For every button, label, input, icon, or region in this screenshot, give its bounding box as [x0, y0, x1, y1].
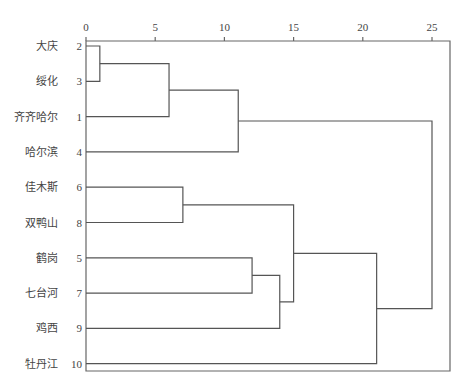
x-tick-label: 0 [83, 21, 89, 33]
leaf-number: 10 [71, 358, 83, 370]
x-tick-label: 20 [357, 21, 369, 33]
leaf-label: 佳木斯 [25, 180, 58, 194]
leaf-label: 大庆 [36, 39, 58, 53]
leaf-number: 6 [77, 181, 83, 193]
dendrogram-link [86, 258, 252, 293]
x-tick-label: 10 [219, 21, 231, 33]
dendrogram-link [86, 253, 377, 363]
leaf-label: 哈尔滨 [25, 145, 58, 159]
leaf-number: 8 [77, 217, 83, 229]
leaf-number: 7 [77, 287, 83, 299]
leaf-label: 鸡西 [36, 321, 58, 335]
dendrogram-link [86, 64, 169, 117]
leaf-label: 牡丹江 [25, 357, 58, 371]
leaf-label: 齐齐哈尔 [14, 110, 58, 124]
leaf-number: 1 [77, 111, 83, 123]
leaf-label: 绥化 [36, 74, 58, 88]
leaf-number: 3 [77, 75, 83, 87]
leaf-label: 双鸭山 [25, 217, 58, 230]
dendrogram-link [86, 90, 238, 152]
x-tick-label: 5 [152, 21, 158, 33]
leaf-label: 鹤岗 [36, 251, 58, 265]
leaf-number: 9 [77, 322, 83, 334]
dendrogram-chart: 0510152025大庆2绥化3齐齐哈尔1哈尔滨4佳木斯6双鸭山8鹤岗5七台河7… [0, 0, 475, 392]
leaf-number: 5 [77, 252, 83, 264]
dendrogram-link [86, 46, 100, 81]
dendrogram-link [183, 205, 294, 302]
dendrogram-link [238, 121, 432, 309]
plot-frame [86, 41, 450, 371]
leaf-number: 4 [77, 146, 83, 158]
dendrogram-link [86, 187, 183, 222]
leaf-label: 七台河 [25, 286, 58, 300]
dendrogram-link [86, 275, 280, 328]
x-tick-label: 25 [427, 21, 439, 33]
x-tick-label: 15 [288, 21, 300, 33]
leaf-number: 2 [77, 40, 83, 52]
